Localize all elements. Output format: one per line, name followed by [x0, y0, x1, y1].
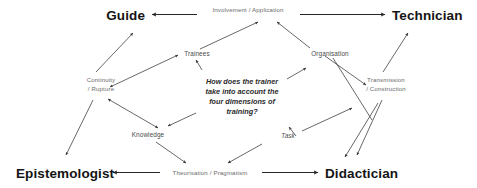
- link-trainees-continuity: [110, 55, 178, 87]
- center-question-line-2: take into account the: [206, 87, 279, 96]
- link-organisation-top-line: [277, 22, 310, 48]
- link-trainees-continuity-line: [110, 55, 178, 87]
- link-organisation-transmission-line: [325, 56, 366, 85]
- link-task-transmission: [302, 108, 352, 131]
- corner-label-technician: Technician: [392, 8, 463, 23]
- link-knowledge-continuity: [108, 99, 158, 128]
- edge-top-involvement-application: Involvement / Application: [152, 6, 385, 15]
- inner-node-task: Task: [281, 132, 295, 139]
- inner-node-trainees: Trainees: [184, 50, 209, 57]
- edge-bottom-theorisation-pragmatism: Theorisation / Pragmatism: [113, 169, 318, 176]
- edge-left-lower-segment: [66, 100, 93, 155]
- link-question-knowledge-line: [168, 113, 196, 126]
- edge-right-lower-segment: [357, 100, 382, 155]
- link-knowledge-theorisation: [156, 142, 186, 163]
- center-question-line-1: How does the trainer: [206, 77, 279, 86]
- link-organisation-top: [277, 22, 310, 48]
- edge-label-top: Involvement / Application: [212, 6, 283, 13]
- link-question-knowledge: [168, 113, 196, 126]
- center-question-line-3: four dimensions of: [209, 97, 276, 106]
- edge-label-left-line1: Continuity: [87, 76, 116, 83]
- link-question-trainees: [196, 60, 202, 70]
- center-question-line-4: training?: [226, 107, 258, 116]
- link-transmission-didactician-line: [345, 103, 378, 157]
- center-question-block: How does the trainer take into account t…: [206, 77, 280, 116]
- corner-label-epistemologist: Epistemologist: [16, 166, 115, 181]
- diagram-svg: Involvement / Application Theorisation /…: [0, 0, 477, 188]
- inner-node-knowledge: Knowledge: [132, 131, 165, 139]
- link-trainees-guide: [200, 22, 258, 49]
- link-task-theorisation: [228, 144, 262, 163]
- edge-label-right-line2: / Construction: [366, 85, 406, 92]
- link-question-trainees-line: [196, 60, 202, 70]
- link-question-organisation: [287, 68, 306, 79]
- link-transmission-didactician: [345, 103, 378, 157]
- link-organisation-transmission: [325, 56, 366, 85]
- link-task-transmission-line: [302, 108, 352, 131]
- link-knowledge-continuity-line: [108, 99, 158, 128]
- link-question-organisation-line: [287, 68, 306, 79]
- edge-right-transmission-construction: Transmission / Construction: [357, 33, 408, 155]
- link-knowledge-theorisation-line: [156, 142, 186, 163]
- link-task-theorisation-line: [228, 144, 262, 163]
- edge-left-upper-segment: [96, 33, 133, 72]
- link-trainees-guide-line: [200, 22, 258, 49]
- edge-left-continuity-rupture: Continuity / Rupture: [66, 33, 133, 155]
- edge-label-right-line1: Transmission: [367, 76, 405, 83]
- diagram-canvas: Involvement / Application Theorisation /…: [0, 0, 477, 188]
- corner-label-didactician: Didactician: [325, 166, 398, 181]
- inner-node-organisation: Organisation: [311, 50, 349, 58]
- corner-label-guide: Guide: [106, 8, 145, 23]
- edge-label-left-line2: / Rupture: [88, 85, 115, 92]
- edge-label-bottom: Theorisation / Pragmatism: [173, 169, 248, 176]
- edge-right-upper-segment: [383, 33, 408, 72]
